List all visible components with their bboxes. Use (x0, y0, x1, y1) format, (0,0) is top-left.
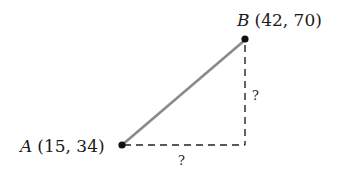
horizontal-leg-question: ? (178, 153, 185, 168)
point-b-label: B(42, 70) (236, 10, 322, 30)
coordinate-diagram: A(15, 34) B(42, 70) ? ? (0, 0, 345, 180)
point-a-label: A(15, 34) (18, 136, 105, 156)
vertical-leg-question: ? (252, 88, 259, 103)
segment-ab (122, 40, 245, 145)
point-b-marker (241, 35, 248, 42)
point-a-marker (118, 141, 125, 148)
